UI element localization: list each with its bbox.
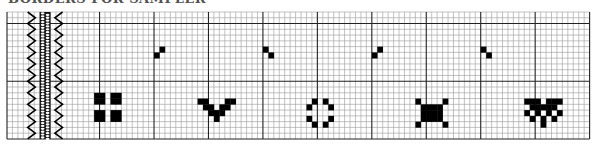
braid-hole (46, 25, 50, 27)
braid-hole (41, 32, 45, 34)
stitch-cell (552, 104, 558, 110)
braid-hole (41, 99, 45, 101)
vertical-border-band (28, 12, 63, 140)
stitch-cell (110, 93, 116, 99)
braid-hole (46, 31, 50, 33)
stitch-cell (100, 110, 106, 116)
stitch-cell (230, 99, 236, 105)
stitch-cell (415, 122, 421, 128)
braid-hole (41, 44, 45, 46)
stitch-cell (203, 104, 209, 110)
braid-hole (41, 116, 45, 118)
stitch-cell (530, 116, 536, 122)
braid-hole (46, 135, 50, 137)
stitch-cell (312, 122, 318, 128)
stitch-cell (159, 47, 165, 53)
braid-hole (41, 67, 45, 69)
braid-hole (46, 63, 50, 65)
stitch-cell (426, 110, 432, 116)
braid-hole (41, 96, 45, 98)
braid-hole (46, 45, 50, 47)
motif-diagonal-pair-4 (481, 47, 492, 59)
braid-hole (41, 64, 45, 66)
stitch-cell (437, 116, 443, 122)
motif-four-squares (94, 93, 122, 122)
stitch-cell (110, 110, 116, 116)
stitch-cell (481, 47, 487, 53)
stitch-cell (328, 116, 334, 122)
braid-hole (46, 112, 50, 114)
stitch-cell (116, 110, 122, 116)
stitch-cell (225, 104, 231, 110)
braid-hole (41, 38, 45, 40)
braid-hole (46, 69, 50, 71)
braid-hole (41, 12, 45, 14)
stitch-cell (432, 110, 438, 116)
braid-hole (41, 128, 45, 130)
braid-hole (46, 132, 50, 134)
braid-hole (41, 15, 45, 17)
braid-hole (41, 110, 45, 112)
braid-hole (46, 92, 50, 94)
motif-diagonal-pair-3 (372, 47, 383, 59)
stitch-cell (116, 99, 122, 105)
braid-hole (46, 51, 50, 53)
stitch-cell (546, 99, 552, 105)
braid-hole (41, 27, 45, 29)
braid-hole (46, 89, 50, 91)
braid-hole (41, 61, 45, 63)
braid-hole (46, 126, 50, 128)
stitch-cell (377, 47, 383, 53)
braid-hole (41, 105, 45, 107)
braid-hole (46, 103, 50, 105)
stitch-cell (552, 116, 558, 122)
stitch-cell (268, 52, 274, 58)
braid-hole (46, 66, 50, 68)
braid-hole (46, 37, 50, 39)
stitch-cell (530, 99, 536, 105)
braid-hole (41, 79, 45, 81)
stitch-cell (372, 52, 378, 58)
braid-hole (41, 47, 45, 49)
braid-hole (41, 119, 45, 121)
stitch-cell (323, 99, 329, 105)
stitch-cell (552, 99, 558, 105)
braid-hole (46, 123, 50, 125)
braid-hole (46, 109, 50, 111)
cross-stitch-chart (0, 0, 597, 147)
stitch-cell (323, 122, 329, 128)
stitch-cell (432, 116, 438, 122)
braid-hole (46, 74, 50, 76)
stitch-cell (486, 52, 492, 58)
stitch-cell (208, 104, 214, 110)
stitch-cell (328, 104, 334, 110)
stitch-cell (154, 52, 160, 58)
stitch-cell (541, 104, 547, 110)
braid-hole (46, 97, 50, 99)
stitch-cell (116, 93, 122, 99)
braid-hole (41, 131, 45, 133)
braid-hole (46, 34, 50, 36)
braid-hole (41, 102, 45, 104)
stitch-cell (214, 110, 220, 116)
stitch-cell (110, 116, 116, 122)
braid-hole (46, 28, 50, 30)
braid-hole (46, 100, 50, 102)
stitch-cell (219, 104, 225, 110)
braid-hole (46, 40, 50, 42)
braid-hole (46, 77, 50, 79)
stitch-cell (437, 104, 443, 110)
braid-hole (46, 83, 50, 85)
stitch-cell (546, 110, 552, 116)
stitch-cell (306, 104, 312, 110)
stitch-cell (421, 116, 427, 122)
braid-hole (46, 115, 50, 117)
braid-hole (41, 133, 45, 135)
braid-hole (41, 18, 45, 20)
stitch-cell (100, 93, 106, 99)
stitch-cell (306, 116, 312, 122)
stitch-cell (426, 104, 432, 110)
braid-hole (41, 136, 45, 138)
stitch-cell (443, 122, 449, 128)
stitch-cell (432, 104, 438, 110)
